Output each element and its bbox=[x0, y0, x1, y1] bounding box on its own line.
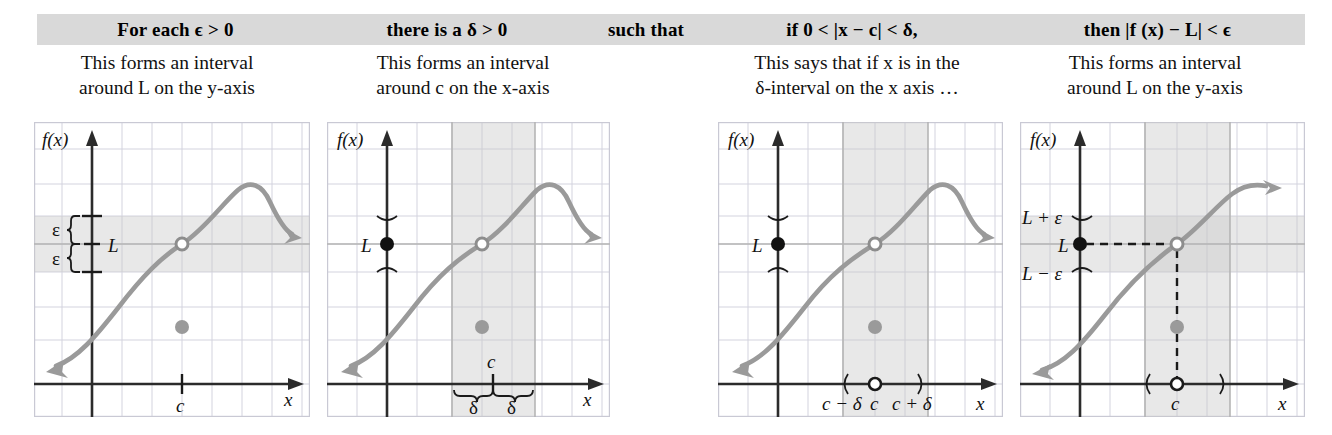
y-axis-label: f(x) bbox=[337, 129, 363, 151]
open-point-c-L bbox=[1171, 238, 1183, 250]
caption-panel-2: This forms an interval around c on the x… bbox=[318, 50, 608, 100]
caption-panel-4: This forms an interval around L on the y… bbox=[1010, 50, 1300, 100]
actual-value-dot bbox=[475, 320, 489, 334]
x-axis-open-dot-c bbox=[1171, 378, 1183, 390]
actual-value-dot bbox=[175, 320, 189, 334]
x-axis bbox=[34, 378, 304, 390]
L-filled-dot bbox=[1073, 237, 1087, 251]
x-axis-label: x bbox=[283, 389, 293, 410]
caption-line-1: This forms an interval bbox=[22, 50, 312, 75]
caption-line-2: around L on the y-axis bbox=[22, 75, 312, 100]
caption-line-2: around L on the y-axis bbox=[1010, 75, 1300, 100]
graph-panel-x-in-delta-interval: f(x) x L c − δ c c + δ bbox=[718, 122, 1003, 417]
L-label: L bbox=[107, 235, 119, 256]
graph-panel-delta-x-axis: f(x) x L c δ δ bbox=[327, 122, 610, 417]
y-axis-label: f(x) bbox=[728, 129, 754, 151]
caption-line-2: δ-interval on the x axis … bbox=[712, 75, 1002, 100]
graph-panel-epsilon-y-axis: f(x) x ε L ε c bbox=[34, 122, 310, 417]
x-axis-label: x bbox=[1277, 393, 1287, 414]
L-filled-dot bbox=[771, 237, 785, 251]
y-axis-label: f(x) bbox=[1030, 129, 1056, 151]
open-point-c-L bbox=[176, 238, 188, 250]
epsilon-upper-label: ε bbox=[52, 219, 60, 240]
caption-panel-1: This forms an interval around L on the y… bbox=[22, 50, 312, 100]
caption-line-2: around c on the x-axis bbox=[318, 75, 608, 100]
caption-line-1: This says that if x is in the bbox=[712, 50, 1002, 75]
actual-value-dot bbox=[868, 320, 882, 334]
y-axis-label: f(x) bbox=[42, 129, 68, 151]
L-filled-dot bbox=[380, 237, 394, 251]
c-label: c bbox=[487, 351, 496, 372]
open-point-c-L bbox=[476, 238, 488, 250]
c-label: c bbox=[176, 395, 185, 416]
y-axis bbox=[86, 130, 98, 417]
caption-panel-3: This says that if x is in the δ-interval… bbox=[712, 50, 1002, 100]
L-plus-epsilon-label: L + ε bbox=[1021, 207, 1063, 228]
L-minus-epsilon-label: L − ε bbox=[1021, 263, 1063, 284]
header-cell-for-each-epsilon: For each ϵ > 0 bbox=[37, 14, 314, 45]
delta-band bbox=[843, 122, 928, 417]
L-label: L bbox=[751, 235, 763, 256]
y-axis bbox=[772, 130, 784, 417]
c-plus-delta-label: c + δ bbox=[892, 393, 933, 414]
L-label: L bbox=[1057, 235, 1069, 256]
actual-value-dot bbox=[1170, 320, 1184, 334]
y-axis bbox=[1074, 130, 1086, 417]
graph-panel-epsilon-around-L: f(x) x L + ε L L − ε c bbox=[1020, 122, 1305, 417]
open-point-c-L bbox=[869, 238, 881, 250]
epsilon-lower-label: ε bbox=[52, 248, 60, 269]
delta-right-label: δ bbox=[507, 397, 516, 417]
delta-left-label: δ bbox=[469, 397, 478, 417]
c-minus-delta-label: c − δ bbox=[822, 393, 863, 414]
header-cell-such-that: such that bbox=[586, 14, 706, 45]
c-label: c bbox=[1171, 393, 1180, 414]
c-label: c bbox=[870, 393, 879, 414]
header-cell-then-conclusion: then |f (x) − L| < ϵ bbox=[1010, 14, 1305, 45]
L-label: L bbox=[360, 235, 372, 256]
caption-line-1: This forms an interval bbox=[318, 50, 608, 75]
caption-line-1: This forms an interval bbox=[1010, 50, 1300, 75]
y-axis bbox=[381, 130, 393, 417]
x-axis-label: x bbox=[582, 389, 592, 410]
header-cell-there-is-a-delta: there is a δ > 0 bbox=[322, 14, 572, 45]
x-axis-label: x bbox=[975, 393, 985, 414]
delta-band bbox=[452, 122, 535, 417]
header-cell-if-condition: if 0 < |x − c| < δ, bbox=[712, 14, 992, 45]
x-axis-open-dot-c bbox=[869, 378, 881, 390]
